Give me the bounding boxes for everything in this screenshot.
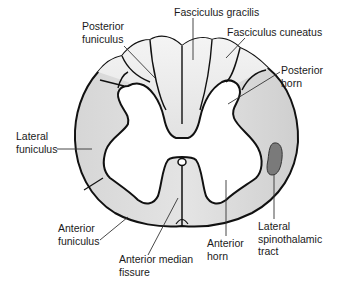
label-fasciculus-gracilis: Fasciculus gracilis <box>174 6 259 19</box>
label-anterior-median-fissure: Anterior median fissure <box>119 253 193 278</box>
leader-anterior-funiculus <box>100 217 128 240</box>
label-anterior-funiculus: Anterior funiculus <box>58 222 99 247</box>
label-lateral-spinothalamic-tract: Lateral spinothalamic tract <box>258 220 322 258</box>
spinal-cord-diagram: Posterior funiculus Fasciculus gracilis … <box>0 0 338 281</box>
label-fasciculus-cuneatus: Fasciculus cuneatus <box>227 26 322 39</box>
label-posterior-funiculus: Posterior funiculus <box>82 20 124 45</box>
label-lateral-funiculus: Lateral funiculus <box>16 130 57 155</box>
label-posterior-horn: Posterior horn <box>281 64 323 89</box>
central-canal <box>178 159 186 166</box>
label-anterior-horn: Anterior horn <box>207 237 244 262</box>
